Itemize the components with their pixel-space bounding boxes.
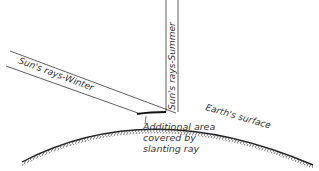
additional-area-label-1: Additional area (142, 121, 215, 132)
additional-area-segment (137, 112, 166, 114)
additional-area-label-3: slanting ray (143, 143, 200, 154)
summer-label: Sun's rays-Summer (167, 21, 177, 110)
additional-area-label-2: covered by (143, 132, 196, 143)
diagram-canvas: Sun's rays-Winter Sun's rays-Summer Eart… (0, 0, 319, 171)
sun-rays-diagram: Sun's rays-Winter Sun's rays-Summer Eart… (0, 0, 319, 171)
